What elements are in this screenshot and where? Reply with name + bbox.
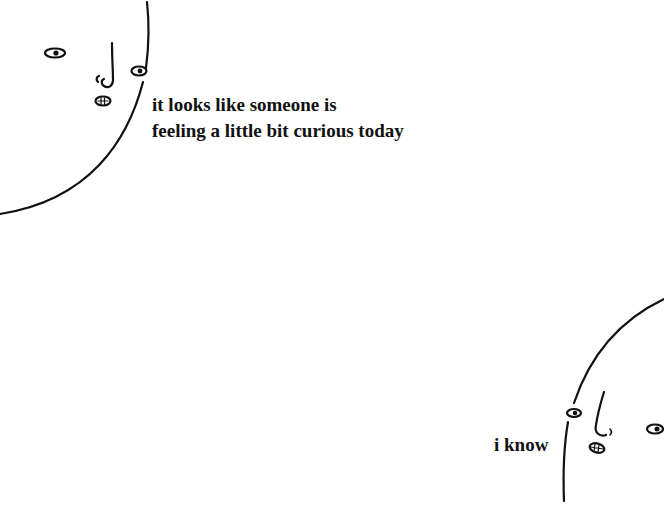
head-outline-upper — [146, 2, 148, 68]
nose-icon — [596, 392, 606, 436]
caption-top: it looks like someone is feeling a littl… — [152, 92, 404, 144]
face-top-left — [0, 2, 148, 214]
face-bottom-right — [564, 299, 664, 501]
head-outline-upper — [574, 299, 664, 403]
caption-top-line-2: feeling a little bit curious today — [152, 118, 404, 144]
head-outline-lower — [564, 422, 568, 501]
nose-icon — [102, 43, 113, 87]
caption-top-line-1: it looks like someone is — [152, 92, 404, 118]
comic-illustration — [0, 0, 664, 505]
caption-bottom-text: i know — [494, 432, 548, 458]
caption-bottom: i know — [494, 432, 548, 458]
head-outline-lower — [0, 82, 143, 214]
